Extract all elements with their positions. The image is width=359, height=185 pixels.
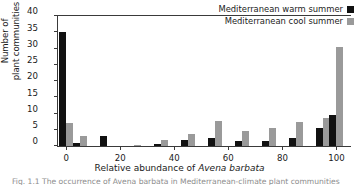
bar (154, 144, 161, 146)
bar (188, 134, 195, 146)
x-axis-tick-label: 40 (157, 154, 191, 163)
bar (59, 32, 66, 146)
bar (329, 115, 336, 146)
y-axis-tick (54, 48, 58, 49)
x-axis-tick (336, 146, 337, 150)
y-axis-tick (54, 80, 58, 81)
y-axis-tick-label: 0 (0, 137, 38, 146)
x-axis-tick (228, 146, 229, 150)
x-axis-title: Relative abundance of Avena barbata (0, 163, 359, 173)
x-axis-title-plain: Relative abundance of (95, 163, 199, 173)
x-axis-tick (120, 146, 121, 150)
y-axis-tick-label: 10 (0, 105, 38, 114)
legend-item: Mediterranean cool summer (218, 16, 354, 28)
bar (215, 121, 222, 146)
bar (262, 141, 269, 146)
bar (316, 128, 323, 146)
y-axis-tick-label: 5 (0, 121, 38, 130)
y-axis-tick (54, 113, 58, 114)
legend-item: Mediterranean warm summer (218, 4, 354, 16)
x-axis-tick (174, 146, 175, 150)
y-axis-tick (54, 31, 58, 32)
y-axis-tick-label: 20 (0, 72, 38, 81)
x-axis-tick-label: 60 (211, 154, 245, 163)
x-axis-title-species: Avena barbata (198, 163, 264, 173)
plot-area: 0510152025303540 020406080100 (57, 15, 351, 147)
bar (235, 141, 242, 146)
x-axis-tick-label: 20 (103, 154, 137, 163)
y-axis-tick (54, 64, 58, 65)
y-axis-tick (54, 129, 58, 130)
bar (100, 136, 107, 146)
x-axis-tick (66, 146, 67, 150)
y-axis-tick-label: 25 (0, 56, 38, 65)
bar (269, 128, 276, 146)
bar (161, 140, 168, 146)
bar (208, 138, 215, 146)
figure-histogram-avena-barbata: Number of plant communities 051015202530… (0, 0, 359, 185)
y-axis-tick-label: 30 (0, 40, 38, 49)
legend-swatch-warm-icon (347, 6, 354, 13)
legend-swatch-cool-icon (347, 18, 354, 25)
x-axis-tick-label: 100 (319, 154, 353, 163)
y-axis-tick-label: 35 (0, 24, 38, 33)
y-axis-tick (54, 145, 58, 146)
y-axis-tick-label: 15 (0, 89, 38, 98)
y-axis-tick (54, 15, 58, 16)
bar (80, 136, 87, 146)
bar (242, 131, 249, 146)
x-axis-tick (282, 146, 283, 150)
bar (73, 143, 80, 146)
y-axis-tick-label: 40 (0, 7, 38, 16)
bar (181, 140, 188, 146)
y-axis-tick (54, 96, 58, 97)
bar (296, 122, 303, 146)
legend-item-label: Mediterranean warm summer (218, 4, 343, 16)
bar (134, 145, 141, 146)
legend-item-label: Mediterranean cool summer (225, 16, 343, 28)
figure-caption: Fig. 1.1 The occurrence of Avena barbata… (12, 178, 359, 185)
x-axis-tick-label: 80 (265, 154, 299, 163)
bar (289, 138, 296, 146)
bar (336, 47, 343, 146)
legend: Mediterranean warm summerMediterranean c… (218, 4, 354, 27)
x-axis-tick-label: 0 (49, 154, 83, 163)
